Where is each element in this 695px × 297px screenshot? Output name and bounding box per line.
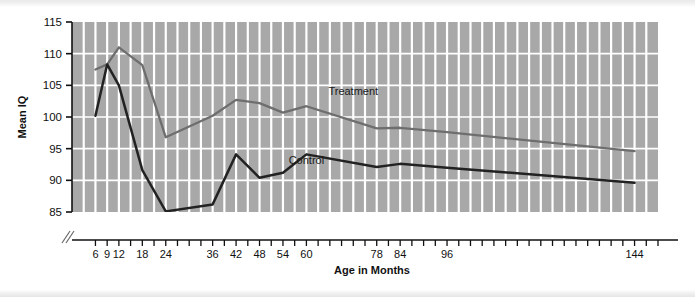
x-tick-label: 42 xyxy=(230,248,242,260)
x-tick-label: 54 xyxy=(277,248,289,260)
figure-container: 859095100105110115 691218243642485460788… xyxy=(0,0,695,297)
y-tick-label: 100 xyxy=(43,111,62,123)
y-tick-label: 90 xyxy=(49,174,62,186)
x-tick-label: 144 xyxy=(625,248,643,260)
y-tick-label: 105 xyxy=(43,79,62,91)
x-axis-tick-labels: 691218243642485460788496144 xyxy=(92,248,643,260)
y-tick-label: 110 xyxy=(44,48,62,60)
x-tick-label: 60 xyxy=(300,248,312,260)
x-tick-label: 48 xyxy=(253,248,265,260)
y-axis-title: Mean IQ xyxy=(16,95,28,138)
x-axis-title: Age in Months xyxy=(334,264,410,276)
axis-break-icon xyxy=(62,231,74,243)
x-tick-label: 84 xyxy=(394,248,406,260)
x-tick-label: 24 xyxy=(160,248,172,260)
x-tick-label: 18 xyxy=(136,248,148,260)
x-tick-label: 36 xyxy=(207,248,219,260)
x-tick-label: 96 xyxy=(441,248,453,260)
series-annotation-treatment: Treatment xyxy=(328,85,378,97)
x-tick-label: 6 xyxy=(92,248,98,260)
x-tick-label: 78 xyxy=(371,248,383,260)
series-annotation-control: Control xyxy=(289,154,324,166)
y-tick-label: 95 xyxy=(49,143,62,155)
y-axis-ticks: 859095100105110115 xyxy=(43,16,72,218)
x-tick-label: 12 xyxy=(113,248,125,260)
x-tick-label: 9 xyxy=(104,248,110,260)
y-tick-label: 115 xyxy=(44,16,62,28)
x-axis-ticks xyxy=(95,240,658,246)
line-chart: 859095100105110115 691218243642485460788… xyxy=(0,0,695,297)
y-tick-label: 85 xyxy=(49,206,62,218)
